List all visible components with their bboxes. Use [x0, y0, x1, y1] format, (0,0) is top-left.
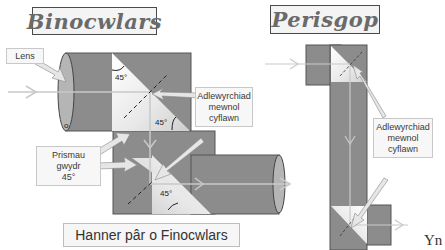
binoculars-caption: Hanner pâr o Finocwlars [63, 223, 240, 247]
lens-label: Lens [6, 48, 44, 64]
binoculars-diagram: 45° 45° 45° o [8, 53, 290, 214]
angle-label-3: 45° [160, 189, 172, 198]
binoculars-title-box: Binocwlars [32, 7, 157, 35]
footer-text-fragment: Yn [424, 232, 442, 249]
binoculars-title: Binocwlars [27, 9, 162, 34]
angle-label-1: 45° [115, 73, 127, 82]
periscope-title: Perisgop [272, 7, 379, 32]
prisms-label: Prismau gwydr 45° [36, 146, 101, 186]
angle-label-2: 45° [155, 118, 167, 127]
periscope-tir-label: Adlewyrchiad mewnol cyflawn [373, 118, 433, 158]
periscope-title-box: Perisgop [270, 5, 380, 34]
binoculars-tir-label: Adlewyrchiad mewnol cyflawn [195, 87, 253, 127]
svg-text:o: o [64, 121, 69, 130]
